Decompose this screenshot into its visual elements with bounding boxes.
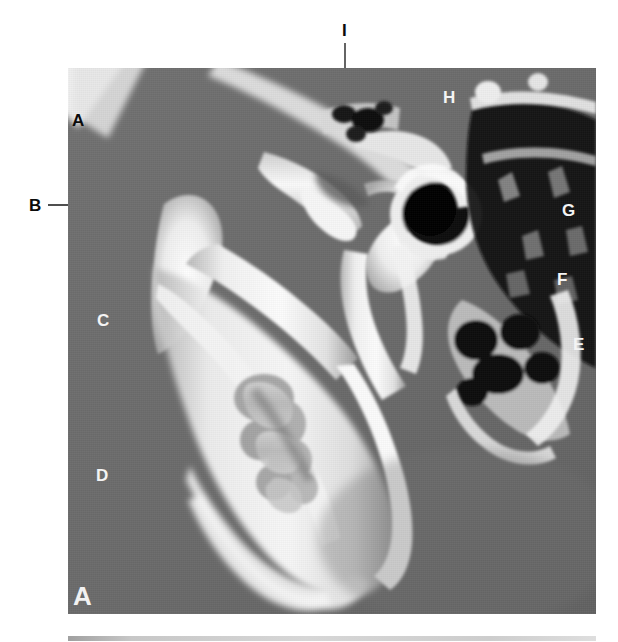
figure-panel: A B C D E F G H I A — [0, 0, 618, 642]
next-panel-edge — [68, 636, 596, 641]
ct-scan-render — [68, 68, 596, 614]
ct-scan-image — [68, 68, 596, 614]
